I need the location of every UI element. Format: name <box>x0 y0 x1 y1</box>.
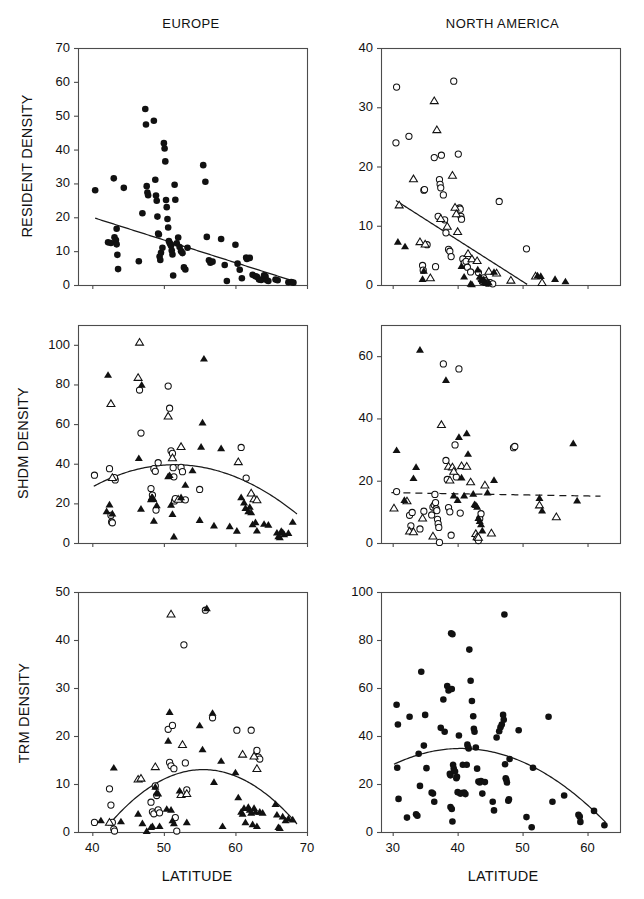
data-point <box>437 421 445 428</box>
data-point <box>181 642 187 648</box>
y-tick-label: 0 <box>16 277 70 292</box>
data-point <box>482 779 489 786</box>
data-point <box>437 725 444 732</box>
y-tick-label: 60 <box>319 348 373 363</box>
data-point <box>449 818 456 825</box>
data-point <box>139 210 146 217</box>
data-point <box>155 230 162 237</box>
data-point <box>149 495 157 502</box>
data-point <box>430 790 437 797</box>
data-point <box>138 430 144 436</box>
data-point <box>485 268 493 275</box>
data-point <box>258 277 265 284</box>
data-point <box>148 494 156 501</box>
series-open-circle <box>393 361 517 546</box>
data-point <box>458 462 466 469</box>
data-point <box>496 198 502 204</box>
y-tick-label: 20 <box>16 495 70 510</box>
data-point <box>490 268 498 275</box>
data-point <box>145 192 152 199</box>
data-point <box>153 502 161 509</box>
ylabel-trm-density: TRM DENSITY <box>16 641 32 786</box>
data-point <box>395 201 403 208</box>
y-tick-label: 30 <box>16 175 70 190</box>
data-point <box>432 264 438 270</box>
data-point <box>475 537 481 543</box>
data-point <box>444 476 450 482</box>
y-tick-label: 80 <box>319 632 373 647</box>
data-point <box>577 819 584 826</box>
data-point <box>447 248 453 254</box>
data-point <box>110 175 117 182</box>
data-point <box>143 827 151 834</box>
data-point <box>409 528 417 535</box>
data-point <box>158 250 165 257</box>
data-point <box>538 279 546 286</box>
data-point <box>421 742 428 749</box>
data-point <box>465 744 472 751</box>
data-point <box>274 532 282 539</box>
data-point <box>156 231 163 238</box>
data-point <box>136 258 143 265</box>
data-point <box>502 775 509 782</box>
data-point <box>239 750 247 757</box>
data-point <box>469 490 477 497</box>
data-point <box>401 243 409 250</box>
data-point <box>462 791 469 798</box>
data-point <box>447 772 454 779</box>
data-point <box>252 273 259 280</box>
data-point <box>246 806 254 813</box>
data-point <box>438 185 444 191</box>
data-point <box>499 721 506 728</box>
data-point <box>115 266 122 273</box>
data-point <box>144 189 151 196</box>
data-point <box>430 97 438 104</box>
data-point <box>393 446 401 453</box>
data-point <box>552 513 560 520</box>
data-point <box>429 512 435 518</box>
data-point <box>473 503 481 510</box>
data-point <box>114 252 121 259</box>
data-point <box>171 766 177 772</box>
data-point <box>176 787 184 794</box>
data-point <box>435 521 441 527</box>
data-point <box>390 504 398 511</box>
data-point <box>168 448 174 454</box>
data-point <box>288 279 295 286</box>
data-point <box>404 814 411 821</box>
data-point <box>458 213 464 219</box>
data-point <box>200 355 208 362</box>
data-point <box>169 251 176 258</box>
y-tick-label: 60 <box>16 416 70 431</box>
regression-line <box>95 218 294 281</box>
data-point <box>451 204 459 211</box>
data-point <box>136 387 142 393</box>
data-point <box>448 172 456 179</box>
data-point <box>243 475 249 481</box>
data-point <box>478 275 486 282</box>
data-point <box>249 821 257 828</box>
data-point <box>226 523 234 530</box>
y-tick-label: 20 <box>319 776 373 791</box>
data-point <box>569 440 577 447</box>
data-point <box>484 489 492 496</box>
data-point <box>170 533 178 540</box>
data-point <box>434 508 440 514</box>
data-point <box>184 244 191 251</box>
x-tick-label: 30 <box>373 840 413 855</box>
data-point <box>406 527 414 534</box>
data-point <box>259 809 267 816</box>
plot-panel-resident-europe <box>0 0 644 899</box>
data-point <box>179 250 186 257</box>
data-point <box>446 476 454 483</box>
data-point <box>467 280 475 287</box>
data-point <box>217 444 225 451</box>
data-point <box>183 819 191 826</box>
data-point <box>409 175 417 182</box>
data-point <box>234 727 240 733</box>
data-point <box>248 727 254 733</box>
y-tick-label: 50 <box>16 108 70 123</box>
data-point <box>455 151 461 157</box>
data-point <box>203 605 211 612</box>
data-point <box>476 517 484 524</box>
